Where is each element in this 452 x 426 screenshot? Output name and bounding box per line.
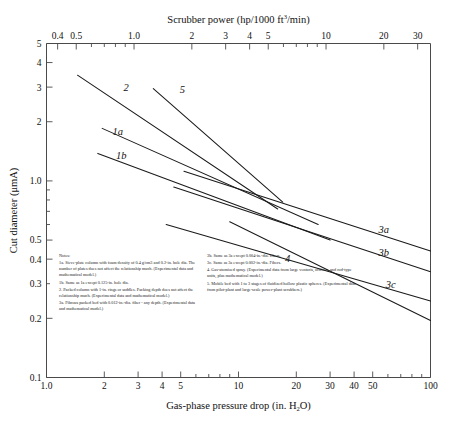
y-tick-label: 5 [37,39,42,49]
note-item: 4. Gas-atomized spray. (Experimental dat… [207,267,357,279]
top-tick-label: 2 [189,31,194,41]
curve-label-3a: 3a [377,224,389,235]
top-tick-label: 3 [223,31,228,41]
notes-right-column: 3b. Same as 3a except 0.004-in.-dia. fib… [207,253,357,294]
notes-heading: Notes: [59,253,199,259]
note-item: 3a. Fibrous packed bed with 0.012-in.-di… [59,300,199,312]
plot-frame [47,44,431,378]
x-tick-label: 4 [160,381,165,391]
y-axis-title: Cut diameter (μmA) [8,167,20,253]
top-axis-title: Scrubber power (hp/1000 ft3/min) [167,13,310,25]
loglog-plot: 1.0234510203040501000.40.51.023451020305… [0,0,452,426]
curve-1a [102,128,318,224]
curve-5 [153,89,282,203]
bottom-axis-title: Gas-phase pressure drop (in. H2O) [166,400,311,413]
curve-label-3c: 3c [385,279,396,290]
top-tick-label: 10 [321,31,331,41]
y-tick-label: 0.1 [30,373,42,383]
y-tick-label: 0.2 [30,314,42,324]
notes-left-column: Notes:1a. Sieve-plate column with foam d… [59,253,199,313]
x-tick-label: 1.0 [41,381,53,391]
curve-label-3b: 3b [377,247,389,258]
x-tick-label: 3 [136,381,141,391]
top-tick-label: 1.0 [128,31,140,41]
x-tick-label: 30 [325,381,335,391]
y-tick-label: 0.3 [30,279,42,289]
top-tick-label: 0.4 [52,31,64,41]
curve-label-2: 2 [124,82,130,93]
x-tick-label: 5 [178,381,183,391]
x-tick-label: 10 [234,381,244,391]
y-tick-label: 2 [37,117,42,127]
x-tick-label: 40 [349,381,359,391]
y-tick-label: 0.4 [30,255,42,265]
y-tick-label: 4 [37,58,42,68]
y-tick-label: 0.5 [30,235,42,245]
top-tick-label: 4 [247,31,252,41]
note-item: 3b. Same as 3a except 0.004-in.-dia. fib… [207,253,357,259]
top-tick-label: 20 [379,31,389,41]
note-item: 5. Mobile bed with 1 to 3 stages of flui… [207,281,357,293]
x-tick-label: 2 [102,381,107,391]
x-tick-label: 20 [292,381,302,391]
note-item: 1b. Same as 1a except 0.125-in. hole dia… [59,280,199,286]
curve-label-5: 5 [180,84,185,95]
note-item: 2. Packed column with 1-in. rings or sad… [59,287,199,299]
top-tick-label: 0.5 [70,31,82,41]
curve-label-1b: 1b [116,150,127,161]
y-tick-label: 1.0 [30,176,42,186]
curve-3a [184,171,431,251]
top-tick-label: 5 [266,31,271,41]
top-tick-label: 30 [413,31,423,41]
curve-label-1a: 1a [112,126,123,137]
note-item: 3c. Same as 3a except 0.002-in.-dia. Fib… [207,260,357,266]
y-tick-label: 3 [37,83,42,93]
x-tick-label: 50 [368,381,378,391]
note-item: 1a. Sieve-plate column with foam density… [59,260,199,278]
x-tick-label: 100 [423,381,438,391]
chart-figure: 1.0234510203040501000.40.51.023451020305… [0,0,452,426]
